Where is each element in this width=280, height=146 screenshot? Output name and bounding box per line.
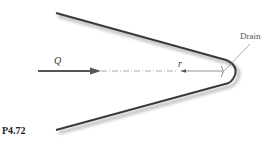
wall-shadow [58, 16, 239, 133]
diagram-canvas [0, 0, 280, 146]
radius-label: r [178, 58, 182, 69]
problem-number: P4.72 [2, 125, 26, 136]
figure: Q r Drain P4.72 [0, 0, 280, 146]
radius-arrow-head [180, 69, 186, 73]
drain-tick [221, 66, 223, 77]
flow-label: Q [54, 55, 61, 66]
flow-arrow-head [90, 68, 101, 75]
drain-label: Drain [240, 31, 261, 41]
